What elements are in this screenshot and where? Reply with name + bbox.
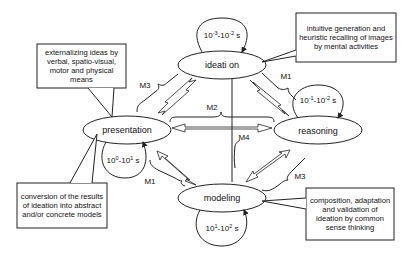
- callout-ideation-text: intuitive generation and heuristic recal…: [296, 13, 396, 62]
- callout-conversion-text: conversion of the results of ideation in…: [17, 183, 107, 228]
- m4-label: M4: [238, 134, 249, 142]
- m3-bottom-label: M3: [294, 173, 305, 181]
- arrow-presentation-reasoning: [172, 124, 272, 132]
- ideation-time: 10-3-10-2 s: [204, 31, 241, 40]
- m1-top-label: M1: [280, 73, 291, 81]
- callout-pointer-ideation: [262, 50, 296, 62]
- m3-top-label: M3: [139, 82, 150, 90]
- m4-brace: [234, 140, 240, 168]
- presentation-label: presentation: [102, 126, 152, 135]
- callout-presentation-text: externalizing ideas by verbal, spatio-vi…: [37, 44, 126, 88]
- ideation-label: ideati on: [205, 61, 239, 70]
- m2-brace: [170, 112, 274, 122]
- presentation-time: 100-101 s: [107, 156, 140, 165]
- reasoning-time: 10-1-10-2 s: [300, 96, 337, 105]
- m2-label: M2: [206, 104, 217, 112]
- m1-bottom-label: M1: [144, 178, 155, 186]
- modeling-label: modeling: [204, 194, 241, 203]
- callout-pointer-reasoning: [262, 198, 306, 209]
- reasoning-label: reasoning: [298, 127, 338, 136]
- callout-reasoning-text: composition, adaptation and validation o…: [306, 188, 394, 240]
- callout-pointer-presentation: [88, 88, 114, 117]
- arrow-modeling-reasoning: [246, 150, 290, 182]
- arrow-presentation-modeling: [157, 151, 196, 185]
- modeling-time: 101-102 s: [206, 224, 239, 233]
- arrow-presentation-ideation: [158, 78, 196, 115]
- diagram-canvas: ideati on presentation reasoning modelin…: [0, 0, 412, 257]
- arrow-ideation-reasoning: [250, 80, 289, 116]
- callout-pointer-conversion: [70, 134, 97, 183]
